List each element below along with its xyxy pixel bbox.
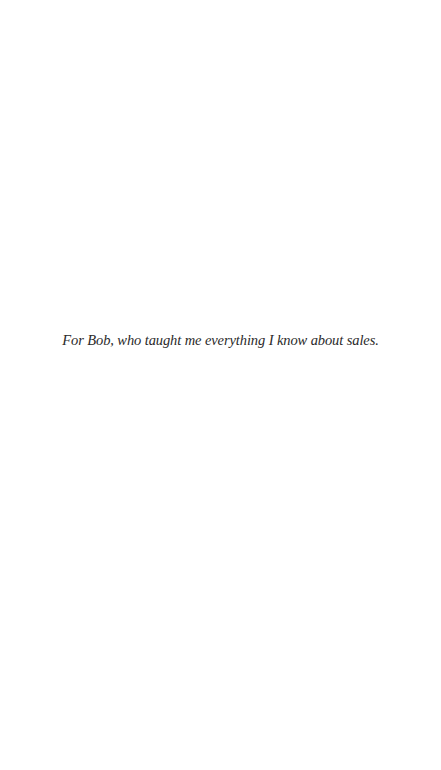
book-page: For Bob, who taught me everything I know… xyxy=(0,0,441,770)
dedication-text: For Bob, who taught me everything I know… xyxy=(0,330,441,350)
